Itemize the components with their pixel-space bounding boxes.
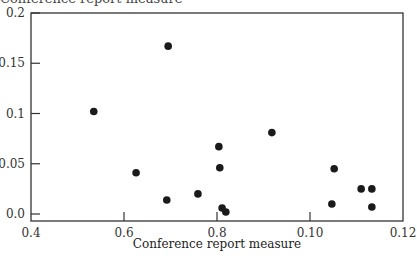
x-tick-label: 0.6 [114,226,133,240]
data-point [328,200,336,208]
y-tick-label: 0.1 [6,107,25,121]
y-tick-label: 0.15 [0,56,25,70]
scatter-chart: 0.00.050.10.150.2 0.40.60.80.100.12 Conf… [0,0,417,258]
x-axis-title: Conference report measure [133,237,301,251]
data-point [268,129,276,137]
y-tick-label: 0.05 [0,157,25,171]
data-point [357,185,365,193]
y-tick-label: 0.0 [6,207,25,221]
data-point [215,143,223,151]
data-points [90,42,376,215]
data-point [164,42,172,50]
data-point [163,196,171,204]
data-point [368,185,376,193]
x-tick-label: 0.12 [390,226,417,240]
x-tick-label: 0.4 [21,226,40,240]
data-point [90,108,98,116]
data-point [330,165,338,173]
data-point [368,203,376,211]
data-point [222,208,230,216]
data-point [194,190,202,198]
x-axis: 0.40.60.80.100.12 [21,212,416,240]
y-axis: 0.00.050.10.150.2 [0,6,40,221]
data-point [216,164,224,172]
plot-frame [31,13,403,221]
data-point [132,169,140,177]
y-tick-label: 0.2 [6,6,25,20]
